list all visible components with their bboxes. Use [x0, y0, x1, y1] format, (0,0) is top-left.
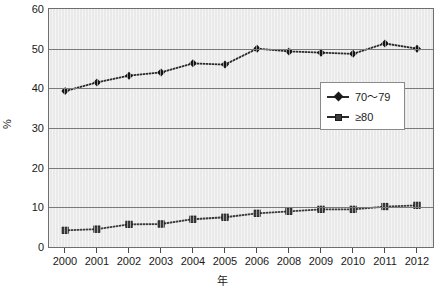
x-axis-tick: [192, 248, 193, 253]
y-axis-labels: 6050403020100: [8, 0, 44, 288]
legend-marker-diamond-icon: [327, 92, 349, 102]
data-point-square: [286, 208, 292, 214]
data-point-square: [62, 227, 68, 233]
gridline: [49, 49, 433, 50]
x-axis-title: 年: [0, 272, 444, 288]
y-axis-tick-label: 50: [14, 44, 44, 54]
x-axis-tick: [256, 248, 257, 253]
data-point-diamond: [349, 50, 357, 58]
data-point-square: [254, 210, 260, 216]
y-axis-tick-label: 30: [14, 123, 44, 133]
legend-marker-square-icon: [327, 112, 349, 122]
x-axis-tick: [288, 248, 289, 253]
x-axis-tick: [384, 248, 385, 253]
x-axis-ticks: [48, 248, 434, 254]
data-point-square: [94, 226, 100, 232]
x-axis-tick: [224, 248, 225, 253]
legend-label-0: 70～79: [355, 92, 390, 103]
x-axis-tick: [352, 248, 353, 253]
data-point-square: [126, 221, 132, 227]
line-chart: 6050403020100 % 200020012002200320042005…: [0, 0, 444, 288]
x-axis-labels: 2000200120022003200420052006200820092010…: [0, 255, 444, 271]
gridline: [49, 207, 433, 208]
y-axis-tick-label: 20: [14, 163, 44, 173]
data-point-diamond: [93, 78, 101, 86]
x-axis-tick: [64, 248, 65, 253]
data-point-square: [190, 216, 196, 222]
y-axis-title: %: [1, 119, 13, 129]
gridline: [49, 168, 433, 169]
legend-item-1: ≥80: [327, 109, 373, 125]
data-point-square: [222, 214, 228, 220]
x-axis-tick: [160, 248, 161, 253]
legend: 70～79 ≥80: [320, 82, 405, 130]
data-point-square: [158, 221, 164, 227]
y-axis-tick-label: 10: [14, 202, 44, 212]
x-axis-tick-label: 2012: [397, 255, 437, 268]
y-axis-tick-label: 0: [14, 242, 44, 252]
y-axis-tick-label: 60: [14, 4, 44, 14]
y-axis-tick-label: 40: [14, 83, 44, 93]
x-axis-tick: [416, 248, 417, 253]
legend-label-1: ≥80: [355, 112, 373, 123]
data-point-diamond: [381, 40, 389, 48]
series-line: [65, 205, 417, 230]
data-point-diamond: [221, 61, 229, 69]
x-axis-tick: [96, 248, 97, 253]
data-point-diamond: [189, 59, 197, 67]
data-point-diamond: [157, 68, 165, 76]
x-axis-tick: [320, 248, 321, 253]
x-axis-tick: [128, 248, 129, 253]
data-point-diamond: [125, 72, 133, 80]
legend-item-0: 70～79: [327, 89, 390, 105]
